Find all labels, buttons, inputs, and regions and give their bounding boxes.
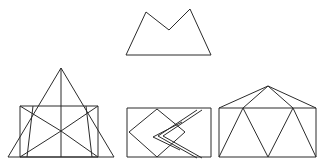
apex-to-right-node bbox=[268, 86, 293, 108]
zig-1 bbox=[219, 108, 243, 157]
geometric-figures-canvas bbox=[0, 0, 324, 168]
rhombus bbox=[129, 109, 185, 157]
roof-right bbox=[268, 86, 316, 108]
roof-left bbox=[219, 86, 268, 108]
left-diagonal-down bbox=[20, 131, 61, 157]
apex-to-left-node bbox=[243, 86, 268, 108]
zig-2 bbox=[243, 108, 268, 157]
rectangle-with-pentagon-roof bbox=[219, 86, 316, 157]
zig-3 bbox=[268, 108, 293, 157]
zig-4 bbox=[293, 108, 316, 157]
rectangle-with-rhombus-and-chevron bbox=[127, 108, 211, 158]
double-peak-mountain bbox=[126, 9, 211, 55]
right-diagonal-up bbox=[61, 106, 98, 131]
outer-rectangle bbox=[219, 108, 316, 157]
right-diagonal-down bbox=[61, 131, 98, 157]
figure-sheet: Line-drawing worksheet: four black outli… bbox=[0, 0, 324, 168]
mountain-outline bbox=[126, 9, 211, 55]
triangle-over-rectangle bbox=[8, 68, 114, 157]
